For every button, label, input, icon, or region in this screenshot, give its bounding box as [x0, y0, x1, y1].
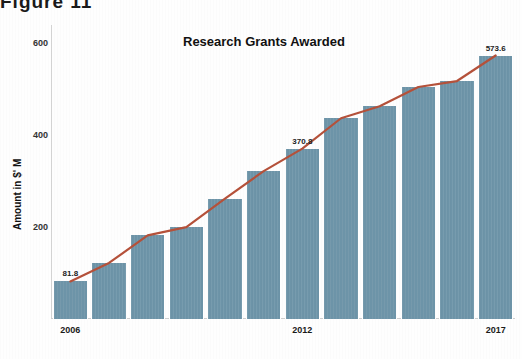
y-tick-label: 200: [14, 222, 48, 232]
plot-area: 81.8370.8573.6: [51, 25, 515, 319]
y-tick-label: 600: [14, 38, 48, 48]
x-tick-label: 2012: [292, 325, 312, 335]
page-canvas: Figure 11 Amount in $' M 200400600 Resea…: [0, 0, 522, 359]
y-tick-label: 400: [14, 130, 48, 140]
data-label: 370.8: [292, 137, 312, 146]
x-tick-label: 2006: [60, 325, 80, 335]
page-header-fragment: Figure 11: [0, 0, 120, 13]
data-label: 81.8: [63, 269, 79, 278]
x-tick-label: 2017: [486, 325, 506, 335]
x-axis-ticks: 200620122017: [51, 325, 515, 345]
research-grants-chart: Amount in $' M 200400600 Research Grants…: [0, 18, 522, 359]
data-label: 573.6: [486, 44, 506, 53]
y-axis-ticks: 200400600: [4, 18, 48, 359]
trend-line: [51, 25, 515, 319]
